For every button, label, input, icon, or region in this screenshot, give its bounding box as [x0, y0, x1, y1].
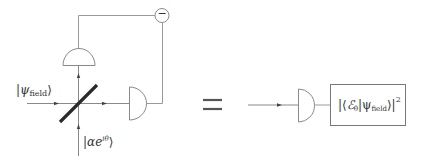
arrow-reflected [77, 73, 80, 78]
subtractor-minus-icon: − [155, 6, 169, 22]
ket-close: ⟩ [109, 135, 114, 149]
arrow-input [54, 102, 59, 105]
detector-right-icon [130, 87, 147, 120]
local-oscillator-label: |αeiθ⟩ [83, 136, 113, 148]
arrow-lo [77, 124, 80, 129]
homodyne-diagram [0, 0, 422, 161]
formula-psi: |ψ [358, 98, 371, 112]
detector-right-side-icon [299, 89, 315, 122]
ket-close: ⟩ [47, 83, 52, 97]
arrow-right-input [277, 103, 282, 106]
result-formula: |⟨ℰθ|ψfield⟩|2 [338, 95, 401, 113]
psi-subscript: field [29, 89, 47, 98]
wire-top-detector-to-subtractor [79, 16, 156, 49]
formula-close: ⟩| [387, 98, 396, 112]
wire-subtractor-to-right-detector [146, 23, 163, 104]
detector-top-icon [63, 49, 95, 66]
formula-psi-subscript: field [371, 105, 387, 113]
formula-power: 2 [396, 95, 401, 104]
arrow-transmitted [102, 102, 107, 105]
formula-E: ℰ [347, 98, 354, 112]
formula-open: |⟨ [338, 98, 347, 112]
alpha-e-symbol: αe [87, 135, 102, 149]
input-state-label: |ψfield⟩ [16, 84, 52, 98]
